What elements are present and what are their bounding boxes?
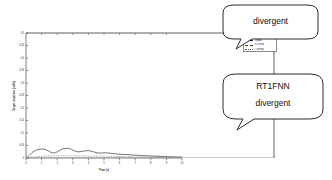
x-tick-label: 8	[150, 161, 152, 165]
y-tick-label: 0.2	[21, 106, 25, 110]
y-tick-label: 0.05	[19, 143, 25, 147]
y-axis-title: Target response (rad/s)	[12, 81, 16, 111]
x-tick-label: 2	[56, 161, 58, 165]
callout-line: RT1FNN	[256, 82, 289, 91]
y-tick-label: 0.25	[19, 93, 25, 97]
x-tick-label: 6	[119, 161, 121, 165]
x-tick-label: 0	[25, 161, 27, 165]
y-tick-group: 0 0.05 0.1 0.15 0.2 0.25 0.3 0.35 0.4	[19, 31, 28, 160]
callout-text-top: divergent	[222, 4, 319, 40]
x-tick-group: 0 1 2 3 4 5 6 7 8 9	[25, 158, 184, 165]
callout-line: divergent	[253, 17, 288, 26]
x-tick-label: 1	[41, 161, 43, 165]
callout-text-bottom: RT1FNN divergent	[222, 73, 324, 122]
x-tick-label: 4	[88, 161, 90, 165]
x-tick-label: 7	[134, 161, 136, 165]
y-tick-label: 0.35	[19, 68, 25, 72]
y-tick-label: 0.15	[19, 118, 25, 122]
callout-divergent-top[interactable]: divergent	[222, 4, 319, 40]
callout-rt1fnn-divergent[interactable]: RT1FNN divergent	[222, 73, 324, 122]
callout-line: divergent	[256, 99, 291, 108]
x-tick-label: 3	[72, 161, 74, 165]
y-tick-label: 0	[23, 156, 25, 160]
y-tick-label: 0.4	[21, 56, 25, 60]
y-tick-label: 0.45	[19, 43, 25, 47]
x-tick-label: 9	[166, 161, 168, 165]
x-axis-title: Time (s)	[99, 168, 109, 172]
y-tick-label: 0.5	[21, 31, 25, 35]
x-tick-label: 5	[103, 161, 105, 165]
y-tick-label: 0.1	[21, 131, 25, 135]
y-tick-label: 0.3	[21, 81, 25, 85]
figure-canvas: 0 0.05 0.1 0.15 0.2 0.25 0.3 0.35 0.4	[0, 0, 332, 180]
x-tick-label: 10	[181, 161, 184, 165]
